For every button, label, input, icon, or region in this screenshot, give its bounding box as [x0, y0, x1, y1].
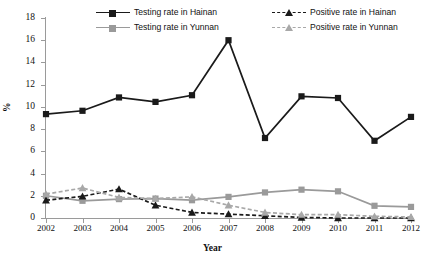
legend-label-testing-hainan: Testing rate in Hainan [134, 8, 217, 17]
legend-marker-triangle [285, 24, 293, 31]
series-line [46, 40, 411, 141]
legend-label-positive-hainan: Positive rate in Hainan [310, 8, 396, 17]
legend-swatch-testing-yunnan [96, 23, 130, 32]
legend-item-positive-hainan[interactable]: Positive rate in Hainan [272, 8, 396, 17]
series-marker-square [189, 92, 195, 98]
legend-swatch-positive-hainan [272, 8, 306, 17]
series-marker-square [262, 189, 268, 195]
series-marker-square [43, 111, 49, 117]
series-marker-triangle [115, 185, 123, 192]
legend-marker-square [109, 25, 116, 32]
series-marker-square [408, 204, 414, 210]
chart-legend: Testing rate in Hainan Testing rate in Y… [96, 8, 416, 40]
legend-item-testing-yunnan[interactable]: Testing rate in Yunnan [96, 23, 219, 32]
series-marker-square [79, 108, 85, 114]
series-marker-square [335, 188, 341, 194]
series-marker-square [335, 95, 341, 101]
legend-label-positive-yunnan: Positive rate in Yunnan [310, 23, 398, 32]
legend-marker-triangle [285, 9, 293, 16]
legend-item-positive-yunnan[interactable]: Positive rate in Yunnan [272, 23, 398, 32]
series-testing-rate-in-hainan [43, 37, 414, 144]
legend-item-testing-hainan[interactable]: Testing rate in Hainan [96, 8, 217, 17]
legend-marker-square [109, 10, 116, 17]
series-marker-square [371, 138, 377, 144]
series-marker-square [116, 94, 122, 100]
legend-swatch-positive-yunnan [272, 23, 306, 32]
series-marker-square [152, 99, 158, 105]
series-marker-triangle [225, 210, 233, 217]
chart-container: 024681012141618 200220032004200520062007… [0, 0, 425, 265]
series-marker-triangle [188, 193, 196, 200]
legend-swatch-testing-hainan [96, 8, 130, 17]
series-marker-square [408, 114, 414, 120]
series-marker-square [298, 187, 304, 193]
legend-label-testing-yunnan: Testing rate in Yunnan [134, 23, 219, 32]
series-marker-square [298, 93, 304, 99]
series-marker-square [262, 135, 268, 141]
series-marker-square [371, 203, 377, 209]
series-marker-square [225, 194, 231, 200]
